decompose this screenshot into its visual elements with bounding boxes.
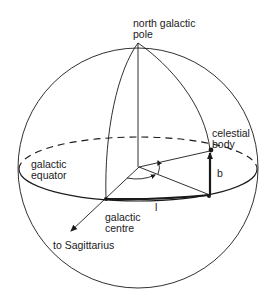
label-galactic-equator-2: equator xyxy=(31,169,67,181)
meridian-galactic-centre xyxy=(106,43,138,199)
label-longitude-l: l xyxy=(155,201,157,213)
label-latitude-b: b xyxy=(217,167,223,179)
equator-foot-point xyxy=(207,194,211,198)
meridian-celestial-body xyxy=(138,43,210,150)
longitude-angle-arc xyxy=(127,175,155,179)
label-north-galactic-pole-2: pole xyxy=(133,28,153,40)
galactic-centre-point xyxy=(104,197,108,201)
label-galactic-centre-2: centre xyxy=(105,222,134,234)
radius-to-body xyxy=(139,151,210,167)
longitude-arc xyxy=(106,195,210,199)
galactic-coordinates-diagram: north galactic pole celestial body galac… xyxy=(0,0,273,307)
label-to-sagittarius: to Sagittarius xyxy=(53,239,114,251)
radius-to-equator-point xyxy=(139,167,210,195)
label-celestial-body-2: body xyxy=(212,138,236,150)
